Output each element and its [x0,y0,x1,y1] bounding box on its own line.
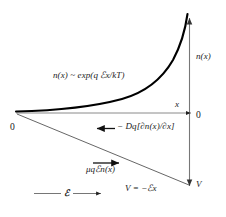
v-axis-label: V [196,180,202,189]
x-axis-label: x [175,100,179,109]
origin-label-left: 0 [10,122,15,132]
figure-container: 0 0 x n(x) V n(x) ~ exp(q ℰx/kT) − Dq[∂n… [0,0,226,217]
potential-equation-text: V = −ℰx [125,183,157,193]
concentration-curve-group [16,14,188,112]
field-magnitude-text: ℰ [64,188,69,198]
v-axis-label-text: V [196,179,202,189]
diffusion-current-text: − Dq[∂n(x)/∂x] [117,121,175,131]
exponential-formula-text: n(x) ~ exp(q ℰx/kT) [53,70,125,80]
drift-current-label: μqℰn(x) [86,165,115,174]
origin-label-right: 0 [196,110,201,120]
diagram-canvas [0,0,226,217]
x-axis-label-text: x [175,99,179,109]
n-axis-label-text: n(x) [196,51,211,61]
exponential-curve [16,14,188,112]
field-magnitude-label: ℰ [64,188,69,198]
potential-equation-label: V = −ℰx [125,184,157,193]
exponential-formula-label: n(x) ~ exp(q ℰx/kT) [53,71,125,80]
diffusion-current-label: − Dq[∂n(x)/∂x] [117,122,175,131]
n-axis-label: n(x) [196,52,211,61]
drift-current-text: μqℰn(x) [86,164,115,174]
